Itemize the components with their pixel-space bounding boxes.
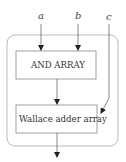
diagram-canvas (0, 0, 126, 162)
input-label-a: a (38, 11, 44, 21)
container-box (7, 35, 118, 146)
wallace-adder-array-label: Wallace adder array (19, 115, 107, 124)
arrow-c (101, 24, 109, 113)
input-label-b: b (75, 11, 81, 21)
input-label-c: c (106, 12, 112, 22)
and-array-label: AND ARRAY (31, 61, 85, 70)
